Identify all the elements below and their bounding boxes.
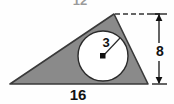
height-arrow-up-icon — [156, 14, 163, 21]
height-dimension-label: 8 — [156, 43, 164, 59]
top-edge-dimension-label: 12 — [73, 0, 87, 8]
circle-center-dot — [100, 53, 106, 59]
height-arrow-down-icon — [156, 77, 163, 84]
radius-dimension-label: 3 — [102, 35, 109, 50]
figure-canvas: 8 16 3 12 — [0, 0, 174, 104]
geometry-figure: 8 16 3 12 — [0, 0, 174, 104]
base-dimension-label: 16 — [70, 86, 87, 103]
